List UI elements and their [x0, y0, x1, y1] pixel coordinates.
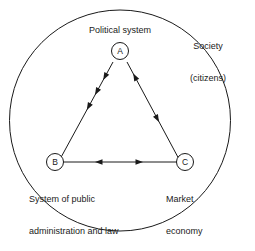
node-c-letter: C: [178, 155, 192, 169]
diagram-canvas: A B C Political system Society (citizens…: [0, 0, 255, 251]
node-b-label: System of public administration and law: [29, 173, 119, 251]
node-c-label: Market economy: [166, 173, 203, 251]
society-label: Society (citizens): [190, 20, 226, 104]
node-c-label-line1: Market: [166, 194, 203, 205]
society-label-line1: Society: [190, 41, 226, 52]
edge-a-to-b-arrowheads: [84, 72, 109, 111]
node-b-label-line1: System of public: [29, 194, 119, 205]
edge-a-to-c-arrowhead: [153, 114, 161, 123]
society-label-line2: (citizens): [190, 73, 226, 84]
node-c-label-line2: economy: [166, 226, 203, 237]
node-a-letter: A: [113, 44, 127, 58]
node-a-label: Political system: [72, 25, 168, 36]
node-b-label-line2: administration and law: [29, 226, 119, 237]
edge-c-to-a-arrowhead: [131, 72, 139, 81]
node-b-letter: B: [48, 155, 62, 169]
